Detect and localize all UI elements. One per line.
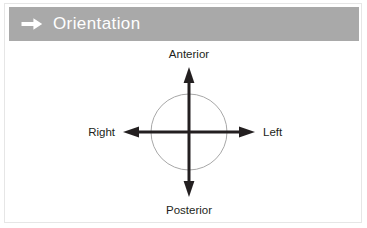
- anterior-arrowhead: [184, 67, 195, 83]
- arrow-right-icon: [21, 16, 43, 32]
- left-arrowhead: [239, 127, 255, 138]
- label-posterior: Posterior: [166, 204, 212, 216]
- label-right: Right: [88, 126, 116, 138]
- orientation-diagram: Anterior Posterior Right Left: [5, 41, 361, 222]
- label-anterior: Anterior: [169, 48, 209, 60]
- orientation-panel: Orientation Anterior Posterior Right Lef…: [4, 3, 362, 223]
- label-left: Left: [263, 126, 283, 138]
- panel-header: Orientation: [9, 7, 359, 41]
- panel-title: Orientation: [53, 14, 141, 34]
- posterior-arrowhead: [184, 181, 195, 197]
- right-arrowhead: [123, 127, 139, 138]
